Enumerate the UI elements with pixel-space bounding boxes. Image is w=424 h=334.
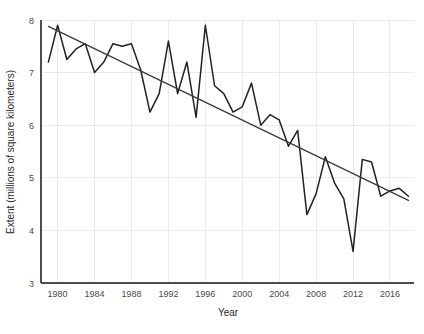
sea-ice-extent-chart: 345678 198019841988199219962000200420082… — [0, 0, 424, 334]
x-tick-label: 2000 — [232, 289, 252, 299]
x-tick-label: 2016 — [380, 289, 400, 299]
y-tick-label: 3 — [29, 279, 34, 289]
y-tick-label: 7 — [29, 68, 34, 78]
y-tick-label: 5 — [29, 173, 34, 183]
x-tick-label: 1996 — [195, 289, 215, 299]
x-tick-label: 1988 — [121, 289, 141, 299]
y-tick-label: 4 — [29, 226, 34, 236]
y-tick-label: 8 — [29, 16, 34, 26]
x-tick-label: 2004 — [269, 289, 289, 299]
x-tick-label: 1984 — [85, 289, 105, 299]
chart-svg: 345678 198019841988199219962000200420082… — [0, 0, 424, 334]
x-tick-label: 2012 — [343, 289, 363, 299]
x-axis-title: Year — [218, 307, 239, 318]
y-axis-title: Extent (millions of square kilometers) — [5, 70, 16, 234]
x-tick-label: 1992 — [158, 289, 178, 299]
x-tick-label: 1980 — [48, 289, 68, 299]
y-tick-label: 6 — [29, 121, 34, 131]
x-tick-label: 2008 — [306, 289, 326, 299]
